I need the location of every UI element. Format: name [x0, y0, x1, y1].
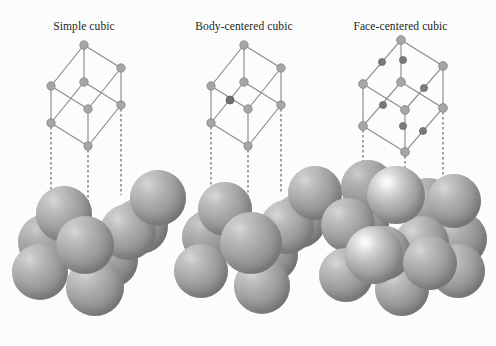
packing-sphere-face — [345, 226, 403, 284]
packing-simple-cubic — [0, 0, 168, 346]
packing-sphere — [56, 216, 114, 274]
packing-face-centered-cubic — [305, 0, 496, 346]
packing-body-centered-cubic — [160, 0, 328, 346]
panel-simple-cubic: Simple cubic — [0, 0, 168, 346]
panel-body-centered-cubic: Body-centered cubic — [160, 0, 328, 346]
panel-face-centered-cubic: Face-centered cubic — [305, 0, 496, 346]
packing-sphere-face — [367, 166, 425, 224]
packing-sphere — [174, 244, 228, 298]
packing-sphere-center — [220, 212, 282, 274]
packing-sphere — [403, 236, 457, 290]
crystal-lattice-figure: Simple cubic — [0, 0, 496, 346]
